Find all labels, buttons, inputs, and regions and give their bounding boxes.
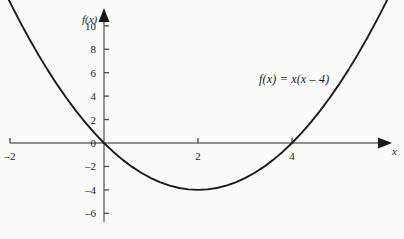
y-tick-label: 8 — [74, 44, 96, 55]
x-tick-label: 4 — [281, 151, 303, 162]
x-axis-label: x — [392, 146, 397, 157]
y-tick-label: 10 — [74, 21, 96, 32]
y-tick-label: –6 — [74, 208, 96, 219]
y-tick-label: 6 — [74, 68, 96, 79]
x-axis-ticks — [10, 138, 292, 143]
y-axis-arrow-icon — [99, 8, 110, 22]
x-tick-label: –2 — [0, 151, 21, 162]
y-tick-label: 0 — [74, 138, 96, 149]
figure-container: f(x) x f(x) = x(x – 4) –2241086420–2–4–6 — [0, 0, 404, 239]
y-axis-ticks — [104, 26, 109, 214]
equation-annotation: f(x) = x(x – 4) — [259, 73, 329, 85]
parabola-plot — [0, 0, 404, 239]
x-axis-arrow-icon — [378, 138, 392, 149]
y-tick-label: 2 — [74, 115, 96, 126]
y-tick-label: 4 — [74, 91, 96, 102]
x-tick-label: 2 — [187, 151, 209, 162]
y-tick-label: –4 — [74, 185, 96, 196]
y-tick-label: –2 — [74, 161, 96, 172]
